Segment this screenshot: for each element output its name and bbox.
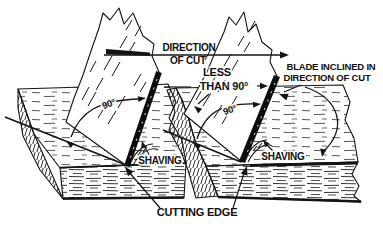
label-shaving-right: SHAVING [261,151,305,162]
left-block-front-face [60,163,186,199]
right-block-front-face [206,162,361,202]
label-blade-inclined-line1: BLADE INCLINED IN [287,61,376,72]
left-block-bottom-edge [63,198,184,199]
figure-canvas: DIRECTION OF CUT LESS THAN 90° BLADE INC… [0,0,383,231]
label-direction-of-cut-line2: OF CUT [170,55,206,66]
label-blade-inclined-line2: DIRECTION OF CUT [283,72,370,83]
label-than-90: THAN 90° [200,80,249,92]
label-less: LESS [203,66,231,78]
label-shaving-left: SHAVING [138,155,182,166]
label-cutting-edge: CUTTING EDGE [157,206,238,218]
label-direction-of-cut-line1: DIRECTION [162,42,215,53]
